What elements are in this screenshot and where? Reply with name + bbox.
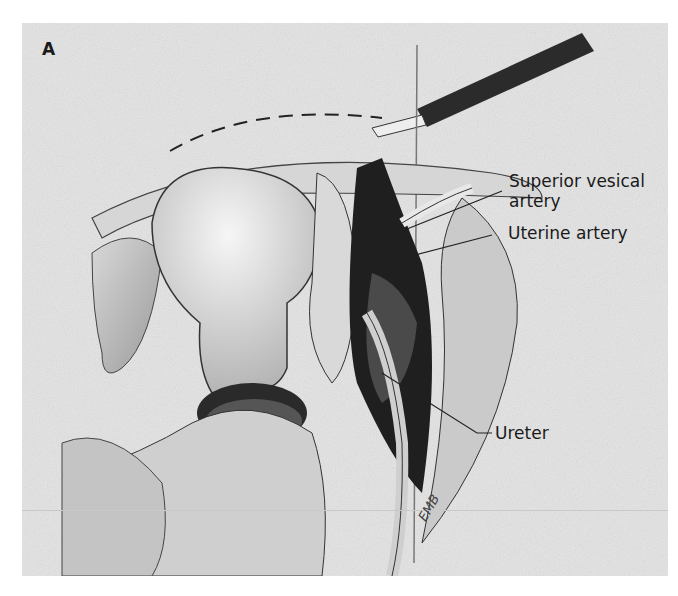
label-superior-vesical-line1: Superior vesical [509, 171, 645, 191]
label-ureter: Ureter [495, 423, 549, 443]
panel-letter: A [42, 39, 55, 59]
page-fold-line [22, 510, 668, 511]
anatomical-illustration [22, 23, 668, 576]
label-uterine-artery: Uterine artery [508, 223, 628, 243]
illustration-panel: A Superior vesical artery Uterine artery… [22, 23, 668, 576]
label-superior-vesical-line2: artery [509, 191, 561, 211]
